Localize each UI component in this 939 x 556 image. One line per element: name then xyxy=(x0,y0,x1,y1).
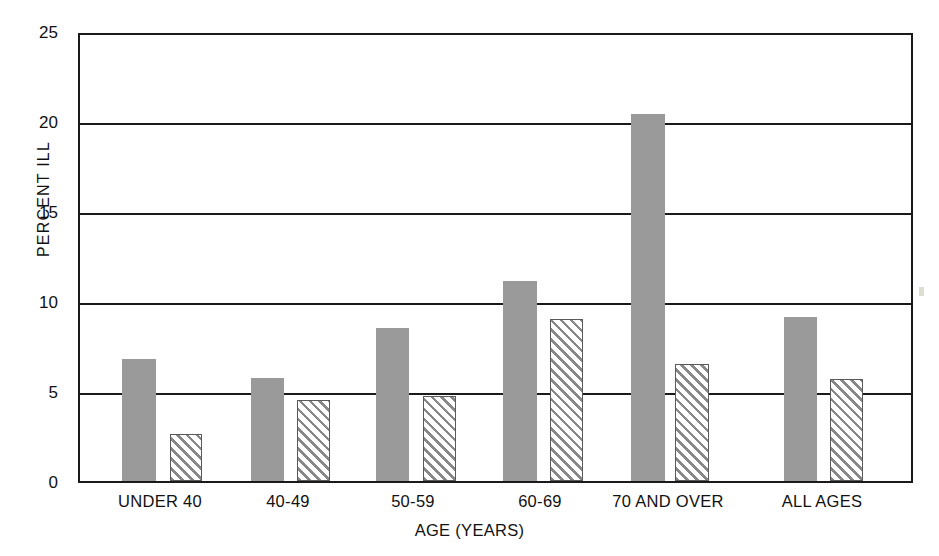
scan-artifact xyxy=(919,287,924,296)
x-tick-label-under-40: UNDER 40 xyxy=(118,492,202,511)
y-tick-label-0: 0 xyxy=(18,474,58,491)
x-tick-label-40-49: 40-49 xyxy=(266,492,310,511)
y-tick-label-20: 20 xyxy=(18,114,58,131)
y-tick-label-5: 5 xyxy=(18,384,58,401)
bar-solid-70-and-over xyxy=(631,114,665,481)
bar-hatched-under-40 xyxy=(170,434,202,481)
bar-solid-60-69 xyxy=(503,281,537,481)
gridline-20 xyxy=(80,123,911,125)
bar-hatched-all-ages xyxy=(830,379,863,481)
plot-area xyxy=(78,33,913,483)
x-tick-label-60-69: 60-69 xyxy=(518,492,562,511)
bar-solid-all-ages xyxy=(784,317,817,481)
gridline-10 xyxy=(80,303,911,305)
bar-solid-50-59 xyxy=(376,328,409,481)
y-tick-label-25: 25 xyxy=(18,24,58,41)
gridline-15 xyxy=(80,213,911,215)
bar-solid-under-40 xyxy=(122,359,156,481)
y-tick-label-15: 15 xyxy=(18,204,58,221)
bar-hatched-60-69 xyxy=(550,319,583,481)
x-tick-label-50-59: 50-59 xyxy=(391,492,435,511)
bar-hatched-70-and-over xyxy=(675,364,709,481)
x-tick-label-all-ages: ALL AGES xyxy=(782,492,863,511)
bar-solid-40-49 xyxy=(251,378,284,481)
x-tick-label-70-and-over: 70 AND OVER xyxy=(612,492,724,511)
bar-chart-figure: PERCENT ILL 25 20 15 10 5 0 UNDER 40 40-… xyxy=(0,0,939,556)
bar-hatched-50-59 xyxy=(423,396,456,482)
y-tick-label-10: 10 xyxy=(18,294,58,311)
bar-hatched-40-49 xyxy=(297,400,330,481)
x-axis-title: AGE (YEARS) xyxy=(0,521,939,540)
